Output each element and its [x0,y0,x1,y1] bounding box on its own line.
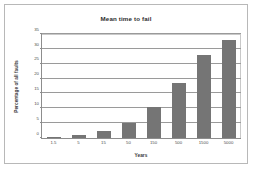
bar-slot [92,34,117,138]
bar[interactable] [97,131,111,138]
y-axis-title-label: Percentage of all faults [14,60,19,113]
bar[interactable] [147,107,161,138]
bar[interactable] [197,55,211,138]
bar-series [42,34,241,138]
x-tick-label: 5 [66,141,91,151]
y-tick-label: 30 [34,42,39,46]
x-tick-label: 1.5 [41,141,66,151]
chart-title: Mean time to fail [5,15,247,22]
bar-slot [166,34,191,138]
bar-slot [216,34,241,138]
y-tick-label: 5 [37,117,39,121]
y-tick-label: 15 [34,87,39,91]
bar-slot [42,34,67,138]
x-tick-label: 150 [141,141,166,151]
y-tick-label: 0 [37,132,39,136]
bar-slot [117,34,142,138]
x-tick-label: 15 [91,141,116,151]
y-tick-label: 20 [34,72,39,76]
bar[interactable] [122,123,136,138]
bar[interactable] [172,83,186,138]
bar-slot [67,34,92,138]
x-tick-label: 1500 [191,141,216,151]
bar[interactable] [47,137,61,138]
y-tick-label: 25 [34,57,39,61]
chart-frame: Mean time to fail Percentage of all faul… [4,4,248,164]
bar[interactable] [72,135,86,138]
bar-slot [191,34,216,138]
x-tick-label: 500 [166,141,191,151]
y-tick-label: 35 [34,28,39,32]
y-axis-title: Percentage of all faults [12,35,21,138]
bar[interactable] [222,40,236,138]
bar-slot [142,34,167,138]
x-tick-label: 5000 [216,141,241,151]
y-tick-label: 10 [34,102,39,106]
plot-area: 05101520253035 [41,34,241,139]
x-axis-tick-labels: 1.55155015050015005000 [41,141,241,151]
x-tick-label: 50 [116,141,141,151]
x-axis-title: Years [41,153,241,158]
